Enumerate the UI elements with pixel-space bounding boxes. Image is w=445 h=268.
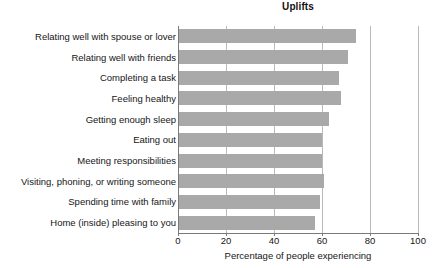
x-axis-tick-label: 20 (206, 235, 246, 246)
x-axis-tick-mark (418, 233, 419, 236)
y-axis-tick-label: Meeting responsibilities (2, 155, 176, 166)
y-axis-tick-label: Spending time with family (2, 196, 176, 207)
x-axis-tick-mark (178, 233, 179, 236)
bar (178, 50, 348, 64)
x-axis-tick-labels: 020406080100 (0, 235, 445, 249)
bar (178, 29, 356, 43)
chart-title: Uplifts (178, 1, 418, 12)
y-axis-tick-label: Relating well with friends (2, 52, 176, 63)
y-axis-tick-label: Eating out (2, 134, 176, 145)
y-axis-tick-labels: Relating well with spouse or loverRelati… (0, 26, 176, 233)
y-axis-line (178, 26, 179, 234)
bar-row (178, 150, 418, 171)
bar-row (178, 192, 418, 213)
bar (178, 71, 339, 85)
bar-row (178, 130, 418, 151)
bar-row (178, 47, 418, 68)
x-axis-tick-label: 100 (398, 235, 438, 246)
bar-row (178, 88, 418, 109)
x-axis-tick-label: 40 (254, 235, 294, 246)
y-axis-tick-label: Relating well with spouse or lover (2, 31, 176, 42)
x-axis-line (178, 233, 419, 234)
bar (178, 91, 341, 105)
bar-chart-figure: Uplifts Relating well with spouse or lov… (0, 0, 445, 268)
y-axis-tick-label: Home (inside) pleasing to you (2, 217, 176, 228)
x-axis-tick-mark (274, 233, 275, 236)
bar-row (178, 109, 418, 130)
bar (178, 154, 322, 168)
plot-area (178, 26, 418, 233)
bar (178, 133, 322, 147)
bar (178, 174, 324, 188)
x-axis-tick-label: 80 (350, 235, 390, 246)
bar-row (178, 212, 418, 233)
y-axis-tick-label: Getting enough sleep (2, 114, 176, 125)
x-axis-tick-mark (322, 233, 323, 236)
x-axis-tick-label: 0 (158, 235, 198, 246)
x-axis-tick-mark (370, 233, 371, 236)
bar-row (178, 26, 418, 47)
x-axis-tick-mark (226, 233, 227, 236)
gridline (418, 26, 419, 233)
bar (178, 112, 329, 126)
y-axis-tick-label: Completing a task (2, 72, 176, 83)
bar-row (178, 67, 418, 88)
y-axis-tick-label: Feeling healthy (2, 93, 176, 104)
y-axis-tick-label: Visiting, phoning, or writing someone (2, 176, 176, 187)
bar (178, 216, 315, 230)
bar-row (178, 171, 418, 192)
x-axis-title: Percentage of people experiencing (178, 250, 418, 261)
bar (178, 195, 320, 209)
x-axis-tick-label: 60 (302, 235, 342, 246)
